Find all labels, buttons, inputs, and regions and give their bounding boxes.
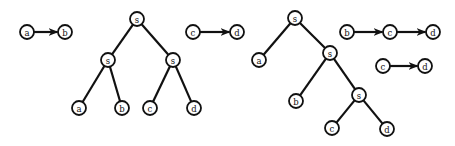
node-g3_b: b — [340, 25, 354, 39]
node-label: c — [148, 104, 153, 114]
tree-edge-t2_s0-t2_s1 — [300, 23, 325, 48]
node-label: c — [381, 62, 386, 72]
node-t2_d: d — [380, 122, 394, 136]
node-label: s — [106, 56, 110, 66]
node-t1_c: c — [143, 101, 157, 115]
tree-edge-t2_s1-t2_s2 — [334, 59, 355, 89]
node-label: s — [171, 56, 175, 66]
node-label: s — [357, 91, 361, 101]
node-label: a — [256, 56, 261, 66]
node-g1_b: b — [58, 25, 72, 39]
node-label: c — [388, 28, 393, 38]
edges-layer — [34, 23, 426, 124]
node-t1_b: b — [115, 101, 129, 115]
diagram-canvas: absssabcdcdsasbscdbcdcd — [0, 0, 455, 146]
tree-edge-t2_s2-t2_c — [336, 100, 354, 122]
node-g4_c: c — [376, 59, 390, 73]
node-label: s — [293, 14, 297, 24]
node-label: b — [119, 104, 125, 114]
node-t2_a: a — [252, 53, 266, 67]
node-t2_c: c — [325, 121, 339, 135]
tree-edge-t1_s2-t1_d — [176, 66, 191, 101]
tree-edge-t1_s0-t1_s1 — [112, 25, 133, 55]
node-g3_c: c — [383, 25, 397, 39]
node-label: a — [24, 28, 29, 38]
node-label: a — [76, 104, 81, 114]
node-t2_s0: s — [288, 11, 302, 25]
node-label: s — [135, 15, 139, 25]
node-g2_c: c — [186, 25, 200, 39]
node-label: d — [384, 125, 390, 135]
tree-edge-t2_s0-t2_a — [264, 23, 291, 54]
tree-edge-t2_s1-t2_b — [300, 59, 326, 96]
node-label: s — [328, 49, 332, 59]
node-g1_a: a — [20, 25, 34, 39]
node-label: d — [234, 28, 240, 38]
node-t2_s1: s — [323, 46, 337, 60]
tree-edge-t1_s1-t1_a — [83, 66, 105, 102]
node-g3_d: d — [426, 25, 440, 39]
node-label: b — [293, 97, 299, 107]
tree-edge-t1_s2-t1_c — [153, 66, 170, 101]
tree-edge-t2_s2-t2_d — [363, 100, 382, 123]
node-g2_d: d — [230, 25, 244, 39]
node-t1_s0: s — [130, 12, 144, 26]
node-label: d — [422, 62, 428, 72]
node-label: c — [330, 124, 335, 134]
tree-edge-t1_s1-t1_b — [110, 67, 120, 102]
node-t2_b: b — [289, 94, 303, 108]
node-label: b — [344, 28, 350, 38]
node-t1_s2: s — [166, 53, 180, 67]
node-label: c — [191, 28, 196, 38]
node-label: b — [62, 28, 68, 38]
node-label: d — [430, 28, 436, 38]
node-t1_d: d — [187, 101, 201, 115]
tree-edge-t1_s0-t1_s2 — [142, 24, 169, 54]
node-t2_s2: s — [352, 88, 366, 102]
node-label: d — [191, 104, 197, 114]
node-g4_d: d — [418, 59, 432, 73]
node-t1_a: a — [72, 101, 86, 115]
node-t1_s1: s — [101, 53, 115, 67]
